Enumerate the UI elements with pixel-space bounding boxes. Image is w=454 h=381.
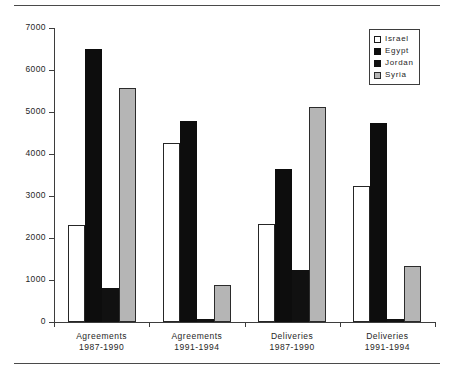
legend-item-label: Syria [385, 71, 407, 79]
bar-jordan-group4 [387, 319, 404, 322]
bar-syria-group4 [404, 266, 421, 322]
y-axis-tick [49, 70, 54, 71]
legend-item-label: Israel [385, 35, 409, 43]
x-axis-tick [435, 322, 436, 327]
category-label-line2: 1991-1994 [149, 342, 244, 353]
grouped-bar-chart: 01000200030004000500060007000 Agreements… [0, 0, 454, 381]
y-axis-tick-label: 1000 [6, 275, 46, 284]
legend-swatch-icon-syria [374, 72, 381, 79]
bar-egypt-group3 [275, 169, 292, 322]
bar-egypt-group4 [370, 123, 387, 323]
legend-item-jordan[interactable]: Jordan [374, 57, 414, 69]
legend-swatch-icon-israel [374, 36, 381, 43]
category-label-line2: 1991-1994 [340, 342, 435, 353]
bar-egypt-group2 [180, 121, 197, 322]
category-label-1: Agreements1987-1990 [54, 331, 149, 353]
category-label-4: Deliveries1991-1994 [340, 331, 435, 353]
legend-swatch-icon-egypt [374, 48, 381, 55]
legend-item-label: Jordan [385, 59, 414, 67]
y-axis-tick [49, 154, 54, 155]
y-axis-tick [49, 28, 54, 29]
y-axis-tick-label: 0 [6, 317, 46, 326]
y-axis-tick [49, 280, 54, 281]
y-axis-tick-label: 2000 [6, 233, 46, 242]
x-axis-tick [245, 322, 246, 327]
y-axis-tick [49, 112, 54, 113]
legend-item-israel[interactable]: Israel [374, 33, 414, 45]
category-label-line1: Deliveries [366, 331, 408, 341]
category-label-line2: 1987-1990 [54, 342, 149, 353]
x-axis-tick [149, 322, 150, 327]
bar-israel-group4 [353, 186, 370, 322]
bar-israel-group2 [163, 143, 180, 322]
x-axis-tick [340, 322, 341, 327]
bar-syria-group2 [214, 285, 231, 322]
bar-syria-group3 [309, 107, 326, 322]
bar-egypt-group1 [85, 49, 102, 322]
y-axis-tick [49, 196, 54, 197]
y-axis-tick-label: 7000 [6, 23, 46, 32]
bar-israel-group3 [258, 224, 275, 322]
bar-jordan-group2 [197, 319, 214, 322]
legend-item-egypt[interactable]: Egypt [374, 45, 414, 57]
chart-legend: IsraelEgyptJordanSyria [369, 29, 420, 85]
y-axis-tick-label: 4000 [6, 149, 46, 158]
legend-item-label: Egypt [385, 47, 409, 55]
bar-jordan-group1 [102, 288, 119, 322]
y-axis-tick-label: 5000 [6, 107, 46, 116]
category-label-2: Agreements1991-1994 [149, 331, 244, 353]
category-label-3: Deliveries1987-1990 [245, 331, 340, 353]
y-axis-line [54, 28, 55, 323]
category-label-line2: 1987-1990 [245, 342, 340, 353]
y-axis-tick [49, 238, 54, 239]
bar-israel-group1 [68, 225, 85, 322]
category-label-line1: Deliveries [271, 331, 313, 341]
x-axis-tick [54, 322, 55, 327]
bar-jordan-group3 [292, 270, 309, 323]
category-label-line1: Agreements [76, 331, 127, 341]
legend-item-syria[interactable]: Syria [374, 69, 414, 81]
category-label-line1: Agreements [171, 331, 222, 341]
bar-syria-group1 [119, 88, 136, 322]
y-axis-tick-label: 6000 [6, 65, 46, 74]
legend-swatch-icon-jordan [374, 60, 381, 67]
y-axis-tick-label: 3000 [6, 191, 46, 200]
